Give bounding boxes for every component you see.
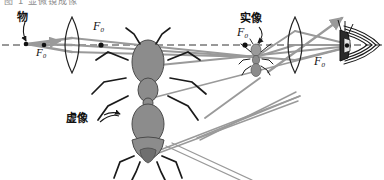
ray-bundle-real-image-to-eye (205, 18, 348, 118)
object-point (24, 42, 29, 47)
ray-bundle-objective-to-real-image (72, 38, 256, 57)
label-focal-mid: F₀ (93, 20, 105, 32)
label-virtual-image: 虚像 (66, 113, 88, 124)
object-label-pointer-arrow (23, 22, 26, 41)
focal-point-mid (98, 42, 103, 47)
figure-canvas: 图 1 显微镜成像 (0, 0, 384, 180)
label-focal-left: F₀ (36, 47, 47, 58)
label-focal-right-lower: F₀ (314, 55, 326, 67)
observer-eye (338, 20, 380, 64)
label-real-image: 实像 (240, 13, 262, 24)
ray-diagram-svg (0, 0, 384, 180)
label-object: 物 (17, 12, 28, 23)
label-focal-right-upper: F₀ (237, 26, 249, 38)
